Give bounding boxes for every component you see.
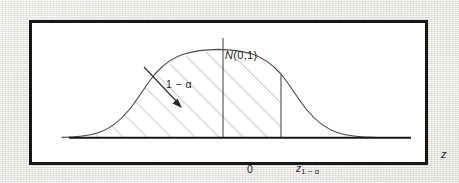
plot-frame: N(0,1) 1 − α 0 z1 − α z bbox=[29, 20, 428, 165]
critical-value-subscript: 1 − α bbox=[301, 167, 319, 176]
origin-tick-label: 0 bbox=[247, 164, 253, 175]
normal-distribution-plot bbox=[32, 23, 425, 162]
shaded-confidence-region bbox=[32, 23, 425, 162]
distribution-label-symbol: N bbox=[225, 49, 233, 61]
z-axis-label: z bbox=[441, 149, 447, 160]
confidence-area-label: 1 − α bbox=[166, 79, 192, 90]
distribution-label: N(0,1) bbox=[225, 50, 257, 61]
critical-value-tick-label: z1 − α bbox=[296, 163, 319, 176]
figure-root: N(0,1) 1 − α 0 z1 − α z bbox=[0, 0, 459, 183]
distribution-label-params: (0,1) bbox=[233, 49, 257, 61]
